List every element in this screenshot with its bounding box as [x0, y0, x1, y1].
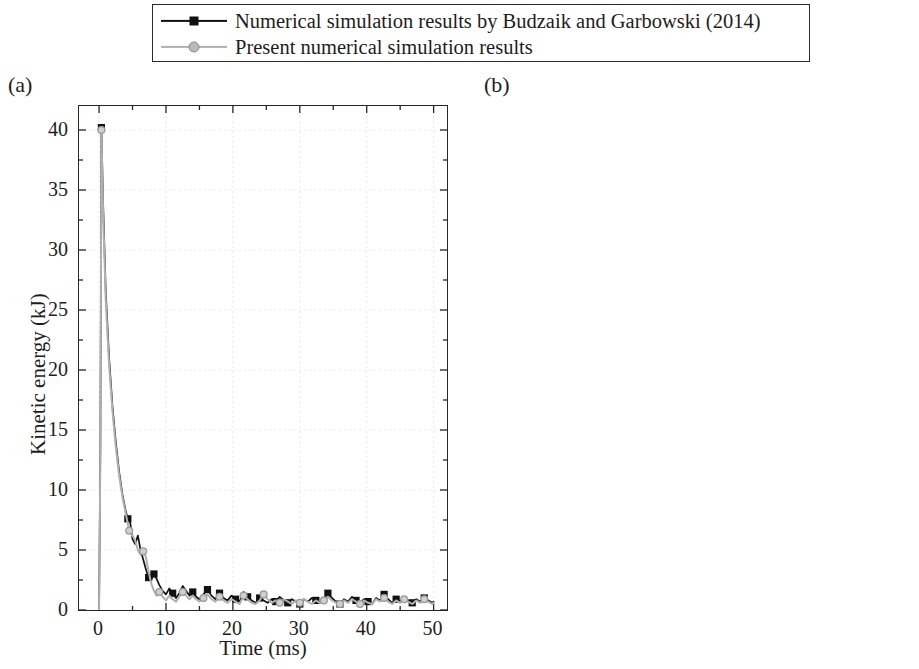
y-tick-label: 35	[12, 178, 68, 201]
y-tick-label: 15	[12, 418, 68, 441]
series-marker-open-circle-icon	[401, 596, 408, 603]
y-tick-label: 0	[12, 598, 68, 621]
series-marker-open-circle-icon	[320, 597, 327, 604]
x-tick-label: 40	[356, 617, 376, 640]
series-marker-open-circle-icon	[179, 589, 186, 596]
series-marker-open-circle-icon	[337, 601, 344, 608]
series-marker-open-circle-icon	[381, 595, 388, 602]
panel-a-canvas	[79, 106, 447, 610]
series-marker-open-circle-icon	[216, 593, 223, 600]
series-marker-filled-square-icon	[204, 586, 211, 593]
panel-a-plot-area	[78, 105, 448, 611]
series-marker-open-circle-icon	[357, 601, 364, 608]
y-tick-label: 25	[12, 298, 68, 321]
y-tick-label: 30	[12, 238, 68, 261]
series-marker-open-circle-icon	[276, 599, 283, 606]
series-marker-open-circle-icon	[126, 527, 133, 534]
series-marker-open-circle-icon	[260, 591, 267, 598]
series-marker-open-circle-icon	[156, 589, 163, 596]
x-tick-label: 20	[222, 617, 242, 640]
figure-root: Numerical simulation results by Budzaik …	[0, 0, 919, 669]
panel-a-x-axis-label: Time (ms)	[78, 636, 448, 661]
y-tick-label: 10	[12, 478, 68, 501]
series-marker-open-circle-icon	[140, 548, 147, 555]
series-marker-open-circle-icon	[421, 596, 428, 603]
panel-a: (a) Kinetic energy (kJ) Time (ms) 051015…	[0, 0, 470, 669]
x-tick-label: 10	[155, 617, 175, 640]
y-tick-label: 40	[12, 118, 68, 141]
panel-a-tag: (a)	[8, 72, 32, 98]
series-line-reference	[99, 128, 434, 610]
series-marker-filled-square-icon	[324, 590, 331, 597]
series-marker-open-circle-icon	[296, 599, 303, 606]
y-tick-label: 20	[12, 358, 68, 381]
x-tick-label: 0	[93, 617, 103, 640]
x-tick-label: 30	[289, 617, 309, 640]
series-marker-filled-square-icon	[150, 570, 157, 577]
series-marker-open-circle-icon	[200, 595, 207, 602]
panel-b: (b) Internal energy (kJ) Time (ms) 01020…	[462, 0, 919, 669]
series-marker-filled-square-icon	[189, 588, 196, 595]
x-tick-label: 50	[423, 617, 443, 640]
series-marker-open-circle-icon	[98, 127, 105, 134]
series-marker-open-circle-icon	[240, 592, 247, 599]
y-tick-label: 5	[12, 538, 68, 561]
panel-b-tag: (b)	[484, 72, 510, 98]
